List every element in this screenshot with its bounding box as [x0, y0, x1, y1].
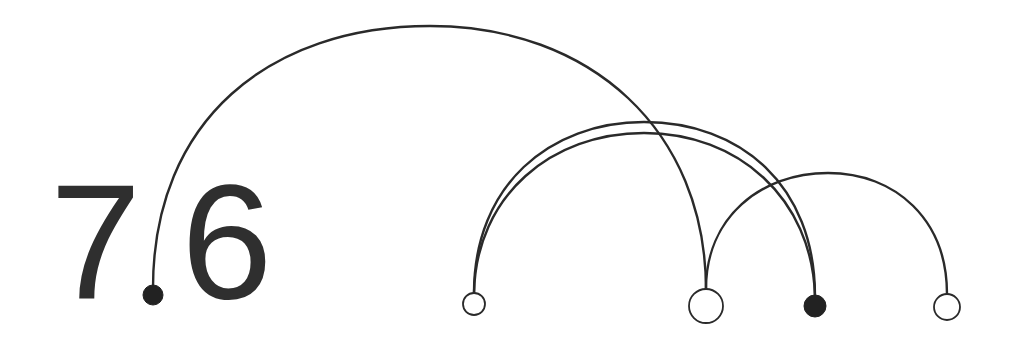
arc-diagram-figure: 7 6 — [0, 0, 1016, 342]
arc-n2-n4-inner — [474, 133, 815, 296]
node-hollow-5 — [934, 294, 960, 320]
node-hollow-2 — [463, 293, 485, 315]
arc-n2-n4-outer — [474, 122, 815, 296]
node-filled-1 — [143, 285, 163, 305]
arc-n3-n5 — [706, 173, 947, 294]
arc-diagram — [0, 0, 1016, 342]
node-hollow-3 — [689, 289, 723, 323]
arc-n1-n3 — [153, 26, 706, 290]
node-filled-4 — [804, 295, 826, 317]
